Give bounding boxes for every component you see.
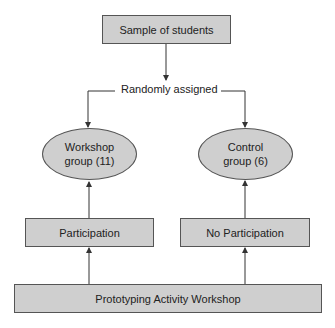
flow-diagram: Sample of students Randomly assigned Wor…: [0, 0, 335, 328]
workshop-group-line1: Workshop: [65, 140, 114, 154]
sample-label: Sample of students: [119, 23, 213, 37]
prototyping-activity-workshop-node: Prototyping Activity Workshop: [14, 284, 322, 313]
participation-label: Participation: [59, 226, 120, 240]
arrow-assigned-to-control: [216, 91, 245, 127]
control-group-line2: group (6): [223, 154, 268, 168]
no-participation-label: No Participation: [206, 226, 284, 240]
participation-node: Participation: [25, 218, 154, 247]
control-group-node: Control group (6): [198, 128, 293, 180]
arrow-assigned-to-workshop: [88, 91, 115, 127]
control-group-line1: Control: [228, 140, 263, 154]
no-participation-node: No Participation: [180, 218, 310, 247]
workshop-group-line2: group (11): [65, 154, 115, 168]
activity-label: Prototyping Activity Workshop: [95, 292, 240, 306]
sample-of-students-node: Sample of students: [102, 15, 231, 44]
workshop-group-node: Workshop group (11): [42, 128, 137, 180]
randomly-assigned-label: Randomly assigned: [118, 83, 221, 95]
